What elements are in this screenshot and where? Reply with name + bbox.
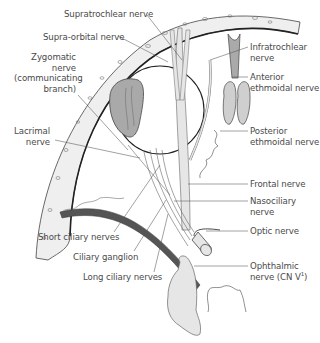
ophthalmic-nerve-diagram: Supratrochlear nerve Supra-orbital nerve… xyxy=(0,0,320,343)
lacrimal-gland xyxy=(110,79,144,137)
ophthalmic-nerve-root xyxy=(168,256,201,335)
label-long-ciliary-nerves: Long ciliary nerves xyxy=(83,272,162,283)
label-supratrochlear-nerve: Supratrochlear nerve xyxy=(64,9,153,20)
label-ciliary-ganglion: Ciliary ganglion xyxy=(73,252,138,263)
crista-structure xyxy=(228,34,240,78)
label-zygomatic-nerve: Zygomatic nerve (communicating branch) xyxy=(14,52,76,94)
label-lacrimal-nerve: Lacrimal nerve xyxy=(10,126,50,147)
label-infratrochlear-nerve: Infratrochlear nerve xyxy=(250,42,307,63)
label-frontal-nerve: Frontal nerve xyxy=(250,179,305,190)
label-optic-nerve: Optic nerve xyxy=(250,226,299,237)
label-supraorbital-nerve: Supra-orbital nerve xyxy=(43,32,125,43)
ethmoid-cells xyxy=(223,82,236,125)
label-nasociliary-nerve: Nasociliary nerve xyxy=(250,196,296,217)
label-ophthalmic-nerve: Ophthalmic nerve (CN V1) xyxy=(250,261,307,282)
label-anterior-ethmoidal-nerve: Anterior ethmoidal nerve xyxy=(250,72,319,93)
label-short-ciliary-nerves: Short ciliary nerves xyxy=(38,232,119,243)
label-posterior-ethmoidal-nerve: Posterior ethmoidal nerve xyxy=(250,126,319,147)
